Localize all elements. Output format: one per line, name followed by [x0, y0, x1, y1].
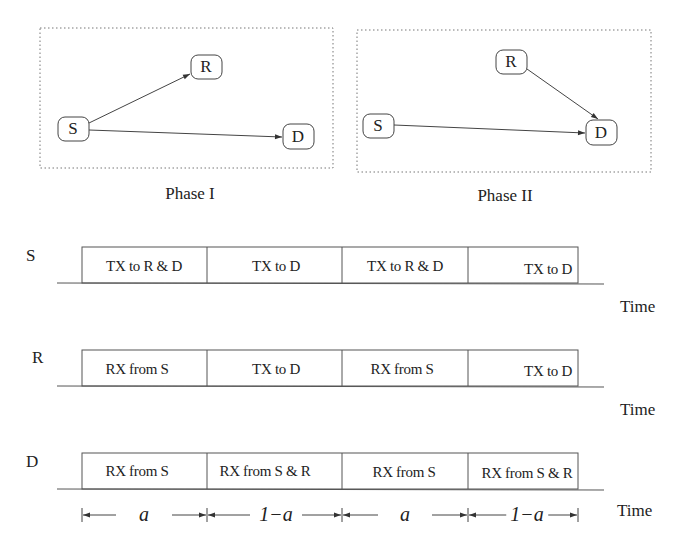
phase-2-caption: Phase II	[477, 186, 532, 206]
phase-2-link-r-d	[527, 69, 598, 119]
timeline-r-slot-3: RX from S	[370, 361, 433, 378]
timeline-s-time-label: Time	[620, 297, 655, 317]
duration-time-label: Time	[617, 501, 652, 521]
timeline-d-slot-1: RX from S	[105, 463, 168, 480]
phase-1-node-d-label: D	[292, 127, 304, 147]
duration-label-2: 1−a	[255, 503, 297, 526]
timeline-r-node-label: R	[32, 348, 43, 368]
timeline-s-slot-4: TX to D	[524, 261, 572, 278]
timeline-d-node-label: D	[26, 452, 38, 472]
duration-label-1: a	[135, 503, 153, 526]
timeline-d-slot-3: RX from S	[372, 464, 435, 481]
phase-1-link-s-r	[89, 74, 190, 123]
timeline-r-time-label: Time	[620, 400, 655, 420]
phase-1-link-s-d	[89, 130, 282, 137]
duration-label-3: a	[396, 503, 414, 526]
phase-2-node-d-label: D	[595, 123, 607, 143]
timeline-r-slot-4: TX to D	[524, 363, 572, 380]
timeline-d-slot-2: RX from S & R	[219, 463, 310, 480]
phase-2-node-s-label: S	[373, 116, 382, 136]
phase-1-node-s-label: S	[68, 119, 77, 139]
duration-arrows	[82, 508, 578, 522]
timeline-d-slot-4: RX from S & R	[481, 465, 572, 482]
phase-2-link-s-d	[394, 125, 585, 133]
timeline-s-slot-1: TX to R & D	[106, 258, 182, 275]
timeline-r-slot-2: TX to D	[252, 361, 300, 378]
phase-1-node-r-label: R	[200, 57, 211, 77]
phase-1-caption: Phase I	[165, 184, 215, 204]
phase-2-node-r-label: R	[505, 52, 516, 72]
timeline-s-node-label: S	[26, 246, 35, 266]
timeline-s-slot-3: TX to R & D	[367, 258, 443, 275]
duration-label-4: 1−a	[506, 503, 548, 526]
diagram-canvas	[0, 0, 680, 539]
timeline-s-slot-2: TX to D	[252, 258, 300, 275]
timeline-r-slot-1: RX from S	[105, 361, 168, 378]
